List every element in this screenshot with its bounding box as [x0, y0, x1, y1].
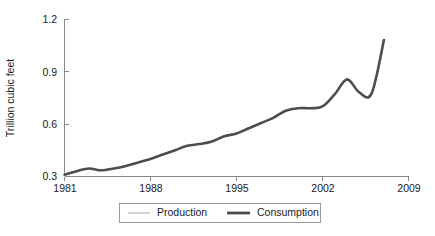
x-tick-label: 1988	[139, 182, 163, 194]
y-tick-label: 0.6	[42, 118, 57, 130]
x-axis-tick-labels: 1981 1988 1995 2002 2009	[53, 182, 421, 194]
x-axis-ticks	[65, 177, 409, 182]
chart-legend: Production Consumption	[120, 204, 321, 223]
y-axis-title: Trillion cubic feet	[4, 59, 16, 137]
y-tick-label: 1.2	[42, 13, 57, 25]
y-axis-tick-labels: 1.2 0.9 0.6 0.3	[42, 13, 57, 182]
chart-figure: Trillion cubic feet 1.2 0.9 0.6 0.3 198	[0, 0, 435, 236]
series-line-consumption	[65, 40, 384, 175]
y-tick-label: 0.9	[42, 66, 57, 78]
x-tick-label: 1995	[225, 182, 249, 194]
x-tick-label: 1981	[53, 182, 77, 194]
line-chart-canvas: Trillion cubic feet 1.2 0.9 0.6 0.3 198	[0, 0, 435, 236]
x-tick-label: 2002	[311, 182, 335, 194]
legend-label-consumption: Consumption	[257, 206, 319, 218]
y-tick-label: 0.3	[42, 170, 57, 182]
y-axis-ticks	[65, 20, 70, 177]
x-tick-label: 2009	[397, 182, 421, 194]
legend-label-production: Production	[157, 206, 207, 218]
